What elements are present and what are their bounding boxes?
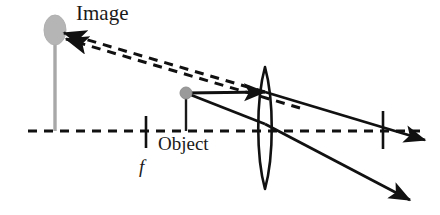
image-label: Image: [76, 3, 128, 24]
ray-center-incident: [186, 93, 265, 124]
ray-optics-figure: Image Object f: [0, 0, 440, 215]
object-dot: [180, 87, 192, 99]
image-blob: [44, 15, 66, 45]
ray-center-refracted: [265, 124, 410, 200]
object-label: Object: [158, 134, 209, 153]
ray-virtual-upper: [64, 33, 265, 92]
optics-diagram-canvas: [0, 0, 440, 215]
ray-parallel-refracted: [265, 92, 425, 140]
ray-parallel-incident: [186, 92, 265, 93]
focal-length-label: f: [139, 157, 144, 176]
